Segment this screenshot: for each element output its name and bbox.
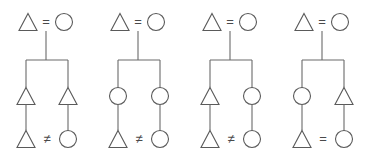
svg-text:≠: ≠	[43, 131, 50, 146]
svg-text:=: =	[134, 14, 142, 29]
diagram-panel: =≠	[184, 0, 276, 163]
diagram-canvas: =≠=≠=≠==	[0, 0, 368, 163]
diagram-panel: ==	[276, 0, 368, 163]
svg-text:≠: ≠	[135, 131, 142, 146]
diagram-panel: =≠	[92, 0, 184, 163]
svg-text:=: =	[319, 131, 327, 146]
svg-text:≠: ≠	[227, 131, 234, 146]
svg-text:=: =	[42, 14, 50, 29]
svg-text:=: =	[318, 14, 326, 29]
svg-text:=: =	[226, 14, 234, 29]
diagram-panel: =≠	[0, 0, 92, 163]
